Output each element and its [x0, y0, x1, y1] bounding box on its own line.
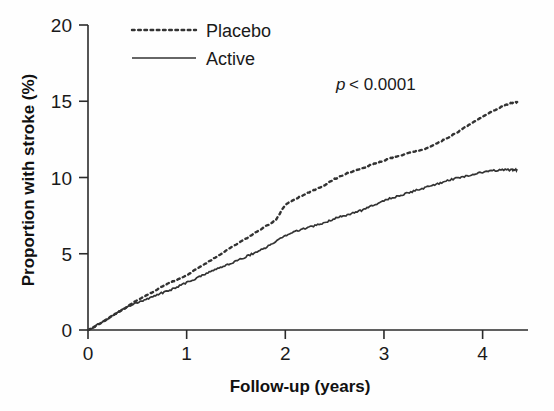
x-tick-label: 0: [83, 343, 94, 364]
series-line-active: [88, 169, 517, 330]
series-line-placebo: [88, 102, 517, 330]
y-tick-label: 5: [61, 244, 72, 265]
x-tick-label: 2: [280, 343, 291, 364]
y-tick-label: 15: [51, 91, 72, 112]
y-axis-title: Proportion with stroke (%): [19, 74, 38, 287]
y-tick-label: 20: [51, 15, 72, 36]
p-value-symbol: p: [335, 75, 345, 94]
legend-label-placebo: Placebo: [206, 21, 271, 41]
p-value-text: < 0.0001: [349, 75, 416, 94]
chart-canvas: 05101520 01234 Placebo Active p < 0.0001…: [0, 0, 554, 411]
x-tick-label: 1: [181, 343, 192, 364]
axes-group: [88, 25, 528, 330]
x-tick-label: 4: [477, 343, 488, 364]
series-group: [88, 102, 517, 330]
y-tick-label: 0: [61, 320, 72, 341]
y-tick-label: 10: [51, 168, 72, 189]
stroke-survival-chart-figure: 05101520 01234 Placebo Active p < 0.0001…: [0, 0, 554, 411]
legend-label-active: Active: [206, 49, 255, 69]
legend: Placebo Active: [132, 21, 271, 69]
x-tick-label: 3: [379, 343, 390, 364]
p-value-annotation: p < 0.0001: [335, 75, 416, 94]
x-axis-title: Follow-up (years): [230, 377, 371, 396]
x-axis-ticks: 01234: [83, 330, 489, 364]
y-axis-ticks: 05101520: [51, 15, 88, 341]
